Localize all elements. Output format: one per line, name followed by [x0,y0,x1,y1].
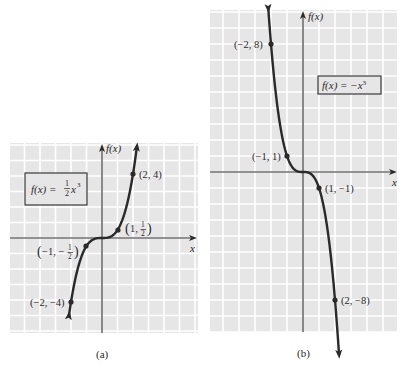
point-neg2-8 [268,41,273,46]
point-label: (2, 4) [139,169,162,181]
point-label: (−2, −4) [30,297,65,309]
svg-text:1,: 1, [130,223,138,234]
point-label: (−1, 1) [252,151,281,163]
x-axis-label: x [391,176,397,188]
svg-text:2: 2 [141,229,145,238]
svg-text:): ) [74,244,79,260]
svg-text:x: x [70,183,76,195]
point-label: (−2, 8) [234,39,263,51]
panel-a: x f(x) f(x) = 1 2 x 3 (2, 4) ( 1, 1 2 [10,142,198,361]
svg-text:): ) [147,221,152,237]
equation-label: f(x) = −x3 [322,79,367,92]
point-1-half [115,227,120,232]
svg-text:3: 3 [77,181,81,189]
svg-text:−1, −: −1, − [42,246,64,257]
svg-text:1: 1 [65,179,69,188]
svg-text:f(x) =: f(x) = [31,183,56,196]
svg-text:2: 2 [68,252,72,261]
point-neg1-neghalf [83,243,88,248]
point-2-4 [130,171,135,176]
x-axis-label: x [189,242,195,254]
y-axis-label: f(x) [308,10,324,23]
y-axis-label: f(x) [106,142,122,155]
svg-text:2: 2 [65,189,69,198]
panel-b: x f(x) f(x) = −x3 (−2, 8) (−1, 1) (1, −1… [210,9,397,360]
caption-b: (b) [297,347,310,360]
point-label: (2, −8) [341,295,370,307]
svg-text:1: 1 [141,220,145,229]
caption-a: (a) [96,348,109,361]
svg-text:1: 1 [68,243,72,252]
point-2-neg8 [332,297,337,302]
point-label: (1, −1) [325,183,354,195]
point-neg1-1 [284,153,289,158]
point-neg2-neg4 [68,299,73,304]
point-1-neg1 [316,185,321,190]
figure: x f(x) f(x) = 1 2 x 3 (2, 4) ( 1, 1 2 [0,0,408,373]
